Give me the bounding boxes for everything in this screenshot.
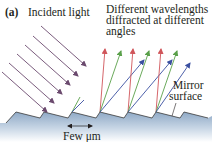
mirror-grating-surface	[0, 112, 212, 142]
scale-label: Few μm	[63, 131, 101, 142]
incident-light-rays	[2, 26, 86, 112]
mirror-label-line2: surface	[169, 91, 202, 102]
panel-label: (a)	[5, 7, 18, 18]
diffracted-label-line3: angles	[106, 26, 135, 37]
mirror-leader-line	[172, 103, 176, 116]
incident-light-label: Incident light	[28, 7, 90, 18]
